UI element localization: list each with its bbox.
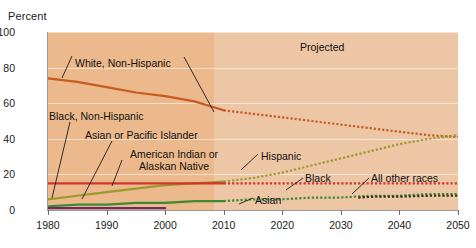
x-tick-label-2020: 2020 xyxy=(271,219,294,231)
chart-container: Percent 100 80 60 40 20 0 19801990200020… xyxy=(0,0,476,248)
x-tick-label-2050: 2050 xyxy=(446,219,469,231)
x-tick-label-2010: 2010 xyxy=(212,219,235,231)
series-line-projected-5 xyxy=(358,196,458,198)
y-tick-20: 20 xyxy=(0,168,15,180)
annotation-american-indian-line2: Alaskan Native xyxy=(118,160,230,172)
x-tick-label-2000: 2000 xyxy=(153,219,176,231)
y-tick-100: 100 xyxy=(0,26,15,38)
series-line-projected-0 xyxy=(224,110,458,137)
annotation-all-other-races: All other races xyxy=(371,172,438,184)
annotation-black: Black xyxy=(305,172,331,184)
annotation-asian-pacific-islander: Asian or Pacific Islander xyxy=(85,129,198,141)
x-axis-line xyxy=(47,210,459,211)
x-tick-mark-2020 xyxy=(282,210,283,215)
y-tick-60: 60 xyxy=(0,97,15,109)
annotation-asian: Asian xyxy=(255,194,281,206)
x-tick-mark-2010 xyxy=(224,210,225,215)
x-tick-label-1990: 1990 xyxy=(95,219,118,231)
x-tick-mark-2000 xyxy=(165,210,166,215)
x-tick-mark-2040 xyxy=(399,210,400,215)
x-tick-mark-2050 xyxy=(458,210,459,215)
annotation-projected: Projected xyxy=(300,41,344,53)
x-tick-mark-1990 xyxy=(107,210,108,215)
series-line-historical-0 xyxy=(48,78,224,110)
x-tick-label-2040: 2040 xyxy=(388,219,411,231)
x-tick-label-2030: 2030 xyxy=(329,219,352,231)
x-tick-mark-1980 xyxy=(48,210,49,215)
y-axis-line xyxy=(47,32,48,211)
annotation-hispanic: Hispanic xyxy=(261,150,301,162)
x-tick-mark-2030 xyxy=(341,210,342,215)
annotation-american-indian-line1: American Indian or xyxy=(118,148,230,160)
annotation-black-nonhispanic: Black, Non-Hispanic xyxy=(49,110,144,122)
series-line-historical-3 xyxy=(48,201,224,206)
y-tick-80: 80 xyxy=(0,62,15,74)
y-tick-0: 0 xyxy=(0,204,15,216)
y-axis-title: Percent xyxy=(8,10,47,22)
y-tick-40: 40 xyxy=(0,133,15,145)
x-tick-label-1980: 1980 xyxy=(36,219,59,231)
annotation-white-nonhispanic: White, Non-Hispanic xyxy=(75,57,171,69)
